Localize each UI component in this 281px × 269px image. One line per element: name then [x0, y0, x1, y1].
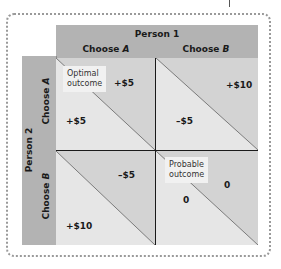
person-1-payoff: +$10	[226, 80, 252, 90]
person-2-payoff: –$5	[176, 116, 193, 126]
person-2-payoff: +$10	[66, 221, 92, 231]
cell-b-a: –$5 +$10	[56, 151, 155, 245]
person-2-payoff: 0	[183, 195, 189, 205]
person-1-header: Person 1 Choose A Choose B	[56, 25, 258, 59]
diagonal-split-icon	[156, 58, 258, 150]
column-divider	[155, 58, 156, 245]
person-1-payoff: 0	[224, 180, 230, 190]
column-choose-b-label: Choose B	[156, 44, 256, 54]
cell-a-b: +$10 –$5	[156, 58, 258, 150]
probable-outcome-label: Probableoutcome	[165, 157, 208, 183]
payoff-grid: Optimaloutcome +$5 +$5 +$10 –$5 –$5 +$10	[56, 58, 258, 245]
person-2-label: Person 2	[24, 110, 34, 190]
person-2-payoff: +$5	[66, 116, 86, 126]
row-divider	[56, 150, 258, 151]
row-choose-b-label: Choose B	[41, 156, 51, 236]
optimal-outcome-label: Optimaloutcome	[63, 66, 106, 92]
callout-tick-line	[229, 0, 230, 7]
cell-b-b: Probableoutcome 0 0	[156, 151, 258, 245]
person-1-payoff: –$5	[118, 170, 135, 180]
column-choose-a-label: Choose A	[56, 44, 156, 54]
person-1-label: Person 1	[56, 29, 258, 39]
person-2-header: Person 2 Choose A Choose B	[22, 56, 57, 245]
person-1-payoff: +$5	[114, 78, 134, 88]
row-choose-a-label: Choose A	[41, 61, 51, 141]
cell-a-a: Optimaloutcome +$5 +$5	[56, 58, 155, 150]
